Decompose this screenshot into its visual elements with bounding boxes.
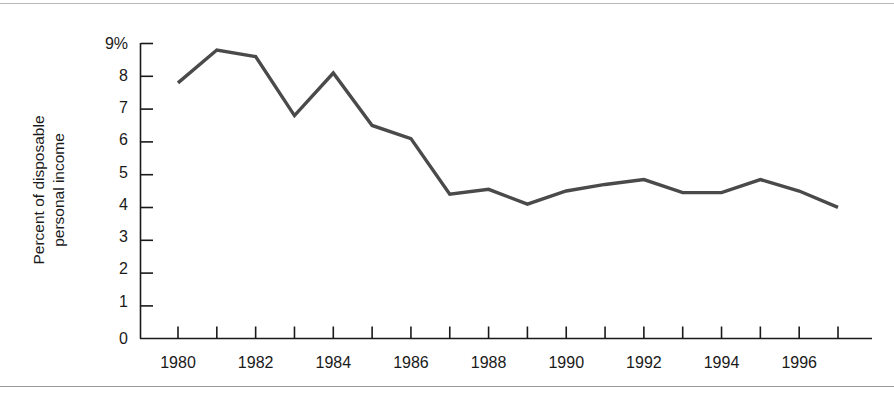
x-axis-ticks [178,327,838,339]
x-tick-label: 1992 [626,354,662,371]
x-tick-label: 1980 [160,354,196,371]
axis-spines [140,43,872,339]
y-axis-label-line-1: Percent of disposable [30,115,47,264]
y-tick-label: 0 [119,330,128,347]
y-tick-label: 9% [105,35,128,52]
y-axis-ticks [141,44,153,306]
x-tick-label: 1996 [781,354,817,371]
x-tick-label: 1994 [704,354,740,371]
data-series-line [178,50,838,207]
y-axis-label: Percent of disposable personal income [30,115,67,264]
x-tick-label: 1986 [393,354,429,371]
y-tick-label: 7 [119,99,128,116]
y-axis-label-line-2: personal income [50,133,67,247]
x-tick-label: 1988 [471,354,507,371]
y-tick-label: 5 [119,164,128,181]
y-tick-label: 4 [119,196,128,213]
x-tick-labels: 198019821984198619881990199219941996 [160,354,817,371]
x-tick-label: 1990 [548,354,584,371]
chart-figure: Percent of disposable personal income 9%… [0,0,894,401]
y-tick-label: 8 [119,67,128,84]
y-tick-label: 6 [119,131,128,148]
x-tick-label: 1982 [238,354,274,371]
y-tick-label: 3 [119,228,128,245]
y-tick-label: 1 [119,293,128,310]
x-tick-label: 1984 [315,354,351,371]
y-tick-labels: 9% 8 7 6 5 4 3 2 1 0 [105,35,128,347]
y-tick-label: 2 [119,260,128,277]
line-chart-plot: Percent of disposable personal income 9%… [0,0,894,401]
